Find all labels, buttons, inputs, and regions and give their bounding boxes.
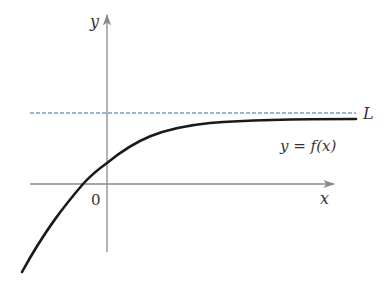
asymptote-diagram: y x 0 L y = f(x) [0,0,387,285]
y-axis-label: y [89,12,100,31]
curve-label: y = f(x) [279,137,336,155]
origin-label: 0 [91,191,101,209]
x-axis-label: x [320,189,329,208]
asymptote-label: L [362,104,374,123]
